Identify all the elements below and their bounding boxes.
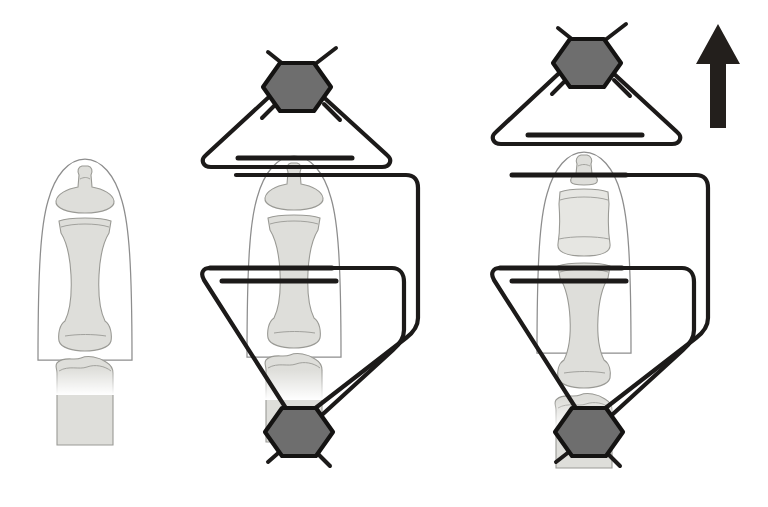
panel-b-region[interactable]: [190, 20, 430, 490]
arrow-region[interactable]: [690, 18, 750, 136]
panel-a-region[interactable]: [14, 100, 164, 400]
panel-c-region[interactable]: [480, 10, 720, 490]
figure-canvas: Distraction lengthening of the distal ph…: [0, 0, 768, 507]
